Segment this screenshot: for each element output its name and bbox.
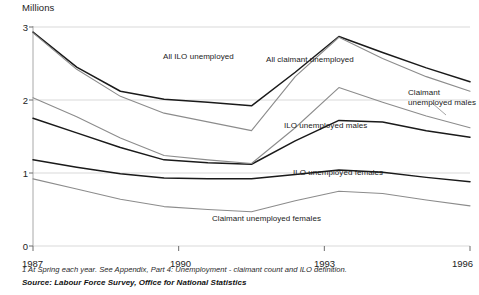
x-tick-label-1996: 1996 (452, 258, 473, 269)
series-label-claimant-unemployed-females: Claimant unemployed females (212, 214, 321, 223)
series-label-all-claimant-unemployed: All claimant unemployed (266, 55, 354, 64)
y-tick-label-1: 1 (12, 168, 28, 179)
series-label-ilo-unemployed-females: ILO unemployed females (293, 168, 383, 177)
y-tick-label-0: 0 (12, 241, 28, 252)
series-label-claimant-unemployed-males: Claimant unemployed males (408, 88, 478, 108)
y-axis-title: Millions (22, 2, 54, 13)
y-tick-label-3: 3 (12, 22, 28, 33)
y-tick-label-2: 2 (12, 95, 28, 106)
unemployment-line-chart: Millions 3 2 1 0 1987 1990 1993 1996 All… (0, 0, 479, 295)
series-label-all-ilo-unemployed: All ILO unemployed (163, 52, 234, 61)
series-label-ilo-unemployed-males: ILO unemployed males (284, 121, 367, 130)
chart-footnote: 1 At Spring each year. See Appendix, Par… (22, 265, 347, 274)
chart-source: Source: Labour Force Survey, Office for … (22, 278, 246, 287)
plot-area (0, 0, 479, 295)
